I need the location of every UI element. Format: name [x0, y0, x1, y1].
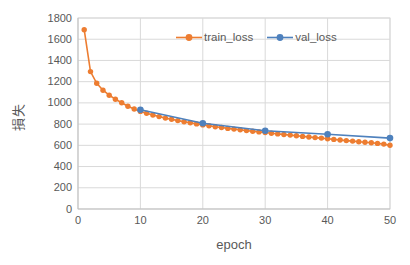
train_loss-point — [113, 97, 118, 102]
y-tick-label: 1200 — [48, 75, 72, 87]
train_loss-point — [369, 140, 374, 145]
legend: train_loss val_loss — [176, 31, 337, 43]
train_loss-point — [132, 106, 137, 111]
val-loss-legend-dot — [277, 34, 284, 41]
train_loss-point — [125, 104, 130, 109]
y-tick-label: 800 — [54, 118, 72, 130]
train_loss-point — [82, 27, 87, 32]
loss-chart: 0200400600800100012001400160018000102030… — [0, 0, 410, 265]
legend-label-val-loss: val_loss — [295, 31, 337, 43]
train_loss-point — [119, 100, 124, 105]
y-axis-title: 損失 — [9, 92, 29, 142]
train_loss-point — [337, 137, 342, 142]
x-tick-label: 50 — [384, 214, 396, 226]
y-tick-label: 0 — [66, 203, 72, 215]
train-loss-legend-dot — [186, 34, 193, 41]
y-tick-label: 200 — [54, 181, 72, 193]
train_loss-point — [375, 141, 380, 146]
val_loss-point — [137, 107, 144, 114]
y-tick-label: 1600 — [48, 33, 72, 45]
val_loss-point — [387, 135, 394, 142]
train-loss-marker-icon — [176, 33, 202, 42]
train_loss-point — [294, 133, 299, 138]
y-tick-label: 1400 — [48, 54, 72, 66]
y-tick-label: 600 — [54, 139, 72, 151]
x-tick-label: 40 — [321, 214, 333, 226]
val-loss-marker-icon — [267, 33, 293, 42]
train_loss-point — [344, 138, 349, 143]
val_loss-point — [262, 127, 269, 134]
legend-item-train-loss[interactable]: train_loss — [176, 31, 253, 43]
x-axis-title: epoch — [78, 237, 390, 252]
y-tick-label: 1000 — [48, 96, 72, 108]
legend-item-val-loss[interactable]: val_loss — [267, 31, 337, 43]
val_loss-point — [324, 131, 331, 138]
train_loss-point — [88, 69, 93, 74]
x-tick-label: 10 — [134, 214, 146, 226]
plot-border — [78, 18, 390, 209]
x-tick-label: 30 — [259, 214, 271, 226]
val_loss-point — [200, 120, 207, 127]
y-tick-label: 400 — [54, 160, 72, 172]
train_loss-point — [312, 135, 317, 140]
train_loss-point — [306, 134, 311, 139]
y-tick-label: 1800 — [48, 12, 72, 24]
train_loss-point — [288, 132, 293, 137]
train_loss-point — [100, 88, 105, 93]
train_loss-point — [362, 140, 367, 145]
x-tick-label: 0 — [75, 214, 81, 226]
train_loss-point — [387, 143, 392, 148]
train_loss-point — [107, 93, 112, 98]
x-tick-label: 20 — [197, 214, 209, 226]
train_loss-point — [381, 141, 386, 146]
train_loss-point — [319, 135, 324, 140]
train_loss-point — [350, 138, 355, 143]
legend-label-train-loss: train_loss — [204, 31, 253, 43]
train_loss-point — [356, 139, 361, 144]
train_loss-point — [300, 134, 305, 139]
train_loss-point — [94, 81, 99, 86]
train_loss-point — [331, 137, 336, 142]
